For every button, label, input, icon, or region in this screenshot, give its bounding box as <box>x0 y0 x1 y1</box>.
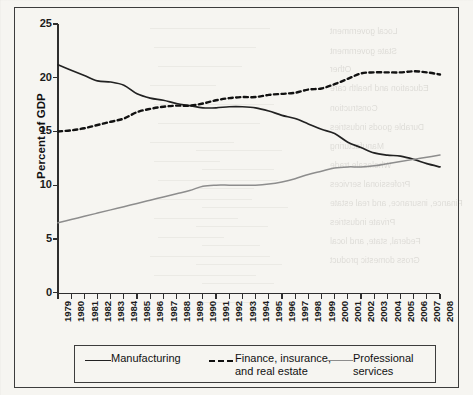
x-tick <box>387 294 388 300</box>
legend-item: Professional services <box>327 352 435 377</box>
x-tick <box>439 294 440 300</box>
legend-item: Finance, insurance, and real estate <box>209 352 331 377</box>
x-tick <box>360 294 361 300</box>
figure-frame <box>14 7 459 388</box>
y-tick-label: 0 <box>24 286 52 298</box>
x-tick <box>413 294 414 300</box>
x-tick-label: 2008 <box>444 301 455 322</box>
legend-swatch-solid <box>327 354 353 366</box>
x-tick <box>97 294 98 300</box>
x-tick-label: 2001 <box>352 301 363 322</box>
x-tick <box>321 294 322 300</box>
legend-label: Manufacturing <box>111 352 181 365</box>
x-tick-label: 1980 <box>75 301 86 322</box>
y-tick <box>53 292 58 293</box>
x-axis-line <box>57 293 440 294</box>
x-tick-label: 1997 <box>299 301 310 322</box>
x-tick-label: 2004 <box>392 301 403 322</box>
x-tick-label: 2007 <box>431 301 442 322</box>
x-tick <box>242 294 243 300</box>
x-tick <box>255 294 256 300</box>
x-tick-label: 1979 <box>62 301 73 322</box>
legend-swatch-dashed <box>209 354 235 366</box>
x-tick <box>163 294 164 300</box>
x-tick <box>281 294 282 300</box>
x-tick <box>308 294 309 300</box>
x-tick-label: 1983 <box>115 301 126 322</box>
x-tick <box>71 294 72 300</box>
y-tick <box>53 238 58 239</box>
y-tick <box>53 185 58 186</box>
x-tick-label: 2005 <box>405 301 416 322</box>
x-tick <box>268 294 269 300</box>
x-tick <box>150 294 151 300</box>
chart-legend: ManufacturingFinance, insurance, and rea… <box>74 345 436 383</box>
x-tick <box>176 294 177 300</box>
x-tick <box>229 294 230 300</box>
x-tick <box>57 294 58 300</box>
x-tick <box>189 294 190 300</box>
x-tick-label: 1999 <box>326 301 337 322</box>
x-tick-label: 2006 <box>418 301 429 322</box>
x-tick <box>110 294 111 300</box>
x-tick <box>215 294 216 300</box>
x-tick-label: 1996 <box>286 301 297 322</box>
y-tick-label: 25 <box>24 17 52 29</box>
x-tick <box>400 294 401 300</box>
x-tick-label: 1994 <box>260 301 271 322</box>
x-tick-label: 1984 <box>128 301 139 322</box>
x-tick-label: 1991 <box>220 301 231 322</box>
x-tick <box>347 294 348 300</box>
x-tick-label: 1986 <box>154 301 165 322</box>
x-tick <box>202 294 203 300</box>
x-tick-label: 1993 <box>247 301 258 322</box>
x-tick-label: 1988 <box>181 301 192 322</box>
y-axis-title: Percent of GDP <box>35 66 47 206</box>
legend-item: Manufacturing <box>85 352 181 366</box>
x-tick-label: 1987 <box>168 301 179 322</box>
x-tick-label: 1998 <box>312 301 323 322</box>
x-tick-label: 1981 <box>89 301 100 322</box>
legend-swatch-solid <box>85 354 111 366</box>
y-tick <box>53 23 58 24</box>
legend-label: Professional services <box>353 352 435 377</box>
y-axis-line <box>57 24 58 294</box>
x-tick-label: 1992 <box>233 301 244 322</box>
x-tick <box>136 294 137 300</box>
x-tick-label: 1990 <box>207 301 218 322</box>
x-tick <box>84 294 85 300</box>
y-tick <box>53 131 58 132</box>
x-tick <box>123 294 124 300</box>
x-tick <box>426 294 427 300</box>
x-tick-label: 1989 <box>194 301 205 322</box>
x-tick-label: 1995 <box>273 301 284 322</box>
x-tick-label: 1985 <box>141 301 152 322</box>
x-tick-label: 2003 <box>378 301 389 322</box>
x-tick <box>334 294 335 300</box>
x-tick-label: 2002 <box>365 301 376 322</box>
x-tick-label: 1982 <box>102 301 113 322</box>
x-tick-label: 2000 <box>339 301 350 322</box>
x-tick <box>374 294 375 300</box>
y-tick-label: 5 <box>24 232 52 244</box>
x-tick <box>295 294 296 300</box>
y-tick <box>53 77 58 78</box>
legend-label: Finance, insurance, and real estate <box>235 352 331 377</box>
